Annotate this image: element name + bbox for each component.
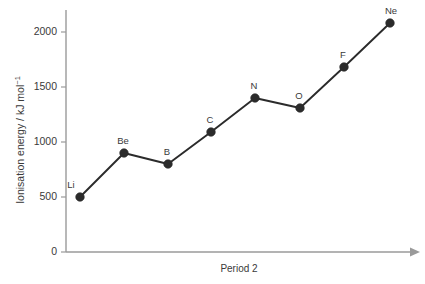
x-axis-arrow-icon <box>410 248 420 257</box>
data-point-b <box>164 160 173 169</box>
data-point-be <box>120 149 129 158</box>
data-point-o <box>296 104 305 113</box>
y-tick-label-2000: 2000 <box>34 25 58 37</box>
data-point-label-ne: Ne <box>385 5 397 16</box>
y-axis-title-superscript: −1 <box>13 76 22 85</box>
y-tick-label-1500: 1500 <box>34 80 58 92</box>
data-point-labels: Li Be B C N O F Ne <box>67 5 397 190</box>
data-point-label-n: N <box>251 80 258 91</box>
data-point-markers <box>76 19 395 202</box>
x-axis-title: Period 2 <box>220 263 258 274</box>
y-axis-ticks <box>61 32 66 252</box>
data-point-label-f: F <box>340 49 346 60</box>
data-point-li <box>76 193 85 202</box>
data-point-n <box>251 94 260 103</box>
data-point-label-o: O <box>295 90 302 101</box>
data-point-ne <box>386 19 395 28</box>
data-point-label-be: Be <box>117 135 129 146</box>
data-point-label-b: B <box>164 146 170 157</box>
y-tick-label-1000: 1000 <box>34 135 58 147</box>
data-point-c <box>207 128 216 137</box>
y-axis-title-base: Ionisation energy / kJ mol <box>14 85 26 204</box>
y-axis-title: Ionisation energy / kJ mol−1 <box>13 76 27 204</box>
data-point-label-li: Li <box>67 179 74 190</box>
y-axis-tick-labels: 0 500 1000 1500 2000 <box>34 25 58 257</box>
data-point-f <box>340 63 349 72</box>
ionisation-energy-chart: 0 500 1000 1500 2000 Ionisation energy /… <box>0 0 425 284</box>
y-tick-label-500: 500 <box>39 190 57 202</box>
data-point-label-c: C <box>207 114 214 125</box>
chart-canvas: 0 500 1000 1500 2000 Ionisation energy /… <box>0 0 425 284</box>
y-tick-label-0: 0 <box>51 245 57 257</box>
